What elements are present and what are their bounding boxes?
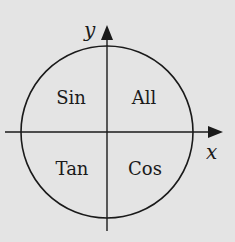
y-axis-arrow-icon — [101, 25, 113, 40]
quadrant-4-label: Cos — [128, 158, 162, 179]
quadrant-2-label: Sin — [56, 87, 86, 108]
y-axis-label: y — [83, 18, 96, 42]
quadrant-3-label: Tan — [56, 158, 89, 179]
x-axis-arrow-icon — [208, 126, 223, 138]
cast-diagram: y x Sin All Tan Cos — [0, 0, 235, 242]
diagram-canvas: y x Sin All Tan Cos — [0, 0, 235, 242]
quadrant-1-label: All — [131, 87, 157, 108]
x-axis-label: x — [206, 140, 217, 164]
